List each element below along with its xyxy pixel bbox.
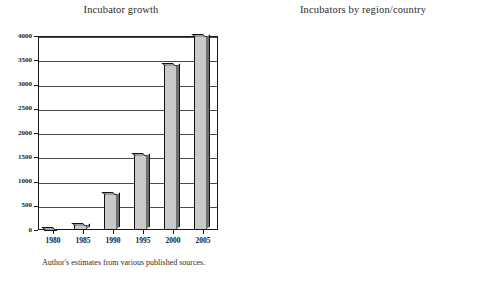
gridline	[39, 61, 217, 62]
bar	[44, 229, 57, 231]
x-tick-label: 2005	[188, 237, 218, 245]
bar-side-face	[116, 192, 120, 229]
bar-side-face	[146, 153, 150, 229]
gridline	[39, 110, 217, 111]
gridline	[39, 37, 217, 38]
y-tick-mark	[34, 133, 38, 134]
chart-panel-incubator-growth: Incubator growth 05001000150020002500300…	[0, 0, 242, 289]
x-tick-label: 1990	[98, 237, 128, 245]
bar-top-face	[162, 63, 176, 66]
x-tick-mark	[143, 230, 144, 234]
y-tick-label: 500	[0, 202, 32, 209]
y-tick-label: 3000	[0, 81, 32, 88]
y-tick-mark	[34, 206, 38, 207]
y-tick-mark	[34, 157, 38, 158]
plot-area-left	[38, 36, 218, 230]
x-tick-mark	[83, 230, 84, 234]
x-tick-label: 1995	[128, 237, 158, 245]
y-tick-label: 4000	[0, 33, 32, 40]
bar	[134, 155, 147, 230]
x-tick-label: 1985	[68, 237, 98, 245]
x-tick-mark	[53, 230, 54, 234]
bar	[194, 36, 207, 230]
y-tick-mark	[34, 230, 38, 231]
gridline	[39, 207, 217, 208]
y-tick-label: 2500	[0, 105, 32, 112]
bar-top-face	[192, 34, 206, 37]
bar	[104, 194, 117, 230]
y-tick-label: 1500	[0, 154, 32, 161]
bar	[164, 65, 177, 230]
y-tick-label: 2000	[0, 130, 32, 137]
figure-caption: Author's estimates from various publishe…	[42, 258, 205, 267]
y-tick-label: 1000	[0, 178, 32, 185]
x-tick-mark	[113, 230, 114, 234]
chart-panel-incubators-by-region: Incubators by region/country 01002003004…	[242, 0, 484, 289]
y-tick-label: 0	[0, 227, 32, 234]
y-tick-mark	[34, 85, 38, 86]
x-tick-mark	[173, 230, 174, 234]
bar-side-face	[176, 64, 180, 229]
chart-title-left: Incubator growth	[0, 4, 242, 15]
y-tick-label: 3500	[0, 57, 32, 64]
chart-title-right: Incubators by region/country	[242, 4, 484, 15]
gridline	[39, 183, 217, 184]
y-tick-mark	[34, 36, 38, 37]
y-tick-mark	[34, 109, 38, 110]
gridline	[39, 86, 217, 87]
bar	[74, 225, 87, 230]
figure-two-bar-charts: Incubator growth 05001000150020002500300…	[0, 0, 484, 289]
y-tick-mark	[34, 182, 38, 183]
bar-side-face	[206, 35, 210, 229]
x-tick-mark	[203, 230, 204, 234]
y-tick-mark	[34, 60, 38, 61]
x-tick-label: 1980	[38, 237, 68, 245]
x-tick-label: 2000	[158, 237, 188, 245]
gridline	[39, 158, 217, 159]
gridline	[39, 134, 217, 135]
